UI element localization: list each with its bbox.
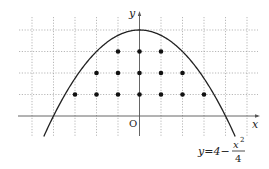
x-axis-label: x	[252, 118, 259, 131]
lattice-point	[137, 71, 142, 76]
equation-lhs: y=4−	[197, 145, 230, 158]
equation-label: y=4− x 2 4	[197, 136, 245, 164]
lattice-point	[180, 92, 185, 97]
lattice-point	[116, 71, 121, 76]
lattice-point	[137, 92, 142, 97]
lattice-point	[94, 71, 99, 76]
lattice-point	[116, 92, 121, 97]
lattice-point	[159, 71, 164, 76]
equation-denominator: 4	[235, 153, 241, 164]
lattice-point	[116, 49, 121, 54]
equation-numerator: x	[233, 139, 239, 150]
lattice-point	[94, 92, 99, 97]
lattice-point	[137, 49, 142, 54]
equation-exponent: 2	[240, 136, 244, 144]
lattice-point	[159, 49, 164, 54]
origin-label: O	[129, 118, 137, 129]
lattice-point	[202, 92, 207, 97]
parabola-diagram: y x O y=4− x 2 4	[0, 0, 269, 169]
lattice-point	[73, 92, 78, 97]
lattice-point	[159, 92, 164, 97]
y-axis-arrow-icon	[138, 11, 141, 16]
lattice-point	[180, 71, 185, 76]
y-axis-label: y	[128, 7, 136, 20]
grid	[19, 17, 258, 136]
